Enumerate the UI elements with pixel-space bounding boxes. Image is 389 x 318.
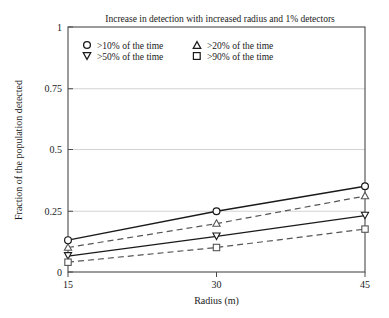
marker-gt10-x45 xyxy=(362,183,369,190)
y-tick-label-0.75: 0.75 xyxy=(45,83,63,94)
legend-label-gt50: >50% of the time xyxy=(97,52,163,62)
y-tick-label-0: 0 xyxy=(57,267,62,278)
legend-label-gt90: >90% of the time xyxy=(207,52,273,62)
y-tick-label-0.5: 0.5 xyxy=(50,144,63,155)
chart-title: Increase in detection with increased rad… xyxy=(105,14,335,24)
marker-gt90-x45 xyxy=(362,226,368,232)
marker-gt90-x30 xyxy=(213,244,219,250)
y-tick-label-0.25: 0.25 xyxy=(45,206,63,217)
legend-circle-marker-icon xyxy=(84,42,91,49)
x-tick-label-15: 15 xyxy=(63,279,73,290)
marker-gt10-x30 xyxy=(213,208,220,215)
y-tick-label-1: 1 xyxy=(57,22,62,33)
marker-gt90-x15 xyxy=(65,259,71,265)
marker-gt10-x15 xyxy=(65,237,72,244)
chart-canvas: 0 0.25 0.5 0.75 1 15 30 45 Increase in d… xyxy=(0,0,389,318)
x-tick-label-45: 45 xyxy=(360,279,370,290)
chart-figure: 0 0.25 0.5 0.75 1 15 30 45 Increase in d… xyxy=(0,0,389,318)
legend-label-gt20: >20% of the time xyxy=(207,41,273,51)
legend-label-gt10: >10% of the time xyxy=(97,41,163,51)
x-axis-ticks xyxy=(68,272,365,277)
x-tick-label-30: 30 xyxy=(212,279,222,290)
y-axis-label: Fraction of the population detected xyxy=(13,80,24,220)
legend-square-marker-icon xyxy=(193,53,200,60)
x-axis-label: Radius (m) xyxy=(194,295,239,307)
